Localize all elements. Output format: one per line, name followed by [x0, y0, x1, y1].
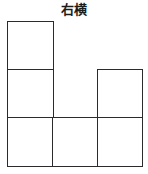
- grid-cell-r3c2: [52, 117, 99, 167]
- figure-root: 右横: [0, 0, 148, 174]
- grid-cell-r2c2: [53, 70, 98, 118]
- grid-cell-r2c3: [97, 69, 143, 119]
- grid-cell-r3c3: [97, 117, 143, 167]
- grid-cell-r1c2: [53, 22, 98, 70]
- grid-cell-r3c1: [7, 117, 54, 167]
- polyomino-grid: [8, 22, 142, 166]
- grid-cell-r1c3: [98, 22, 142, 70]
- figure-title: 右横: [0, 2, 148, 18]
- grid-cell-r1c1: [7, 21, 54, 71]
- grid-cell-r2c1: [7, 69, 54, 119]
